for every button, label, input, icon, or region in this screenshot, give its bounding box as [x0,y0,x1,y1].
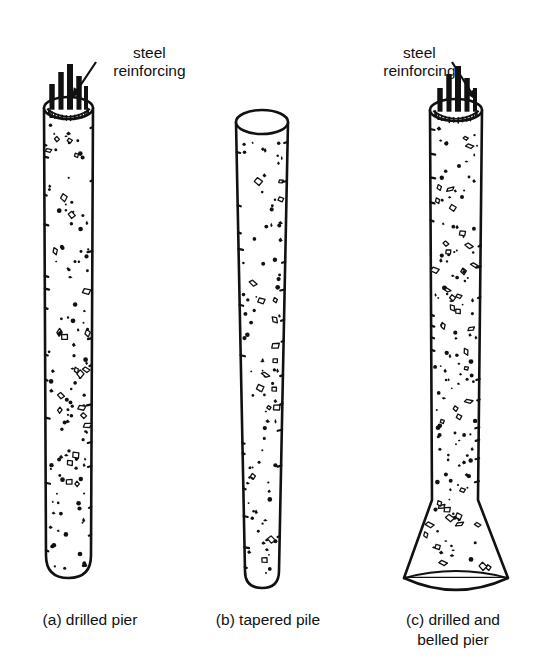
aggregate-dot [242,293,246,297]
aggregate-dot [257,530,260,533]
aggregate-dot [273,368,276,371]
edge-tick [45,418,49,419]
edge-tick [282,181,287,182]
aggregate-dot [82,322,84,324]
aggregate-dot [60,428,63,431]
aggregate-dot [466,454,469,457]
callout-line-2: reinforcing [383,62,455,79]
edge-tick [88,338,92,339]
aggregate-dot [64,532,69,537]
edge-tick [282,341,284,342]
aggregate-dot [67,449,70,452]
edge-tick [280,375,283,376]
aggregate-dot [441,199,444,202]
edge-tick [240,305,244,306]
aggregate-dot [83,357,88,362]
aggregate-dot [442,285,447,290]
edge-tick [280,290,285,291]
aggregate-dot [48,350,51,353]
aggregate-dot [73,260,76,263]
edge-tick [238,232,241,233]
aggregate-dot [58,474,61,477]
aggregate-dot [73,302,77,306]
aggregate-dot [268,567,272,571]
edge-tick [89,507,91,508]
aggregate-dot [261,262,265,266]
aggregate-dot [56,493,58,495]
rebar-bar-upper-5 [84,86,88,110]
aggregate-dot [436,530,439,533]
edge-tick [478,297,480,298]
aggregate-dot [275,285,280,290]
aggregate-dot [243,150,247,154]
steel-reinforcing-label-c: steel reinforcing [366,26,456,98]
aggregate-dot [67,414,69,416]
aggregate-dot [76,501,81,506]
aggregate-dot [277,277,281,281]
aggregate-dot [78,151,83,156]
bell-base-curve [404,578,508,590]
edge-tick [278,536,280,537]
aggregate-dot [455,443,457,445]
aggregate-dot [466,487,468,489]
aggregate-dot [462,304,464,306]
aggregate-dot [65,209,67,211]
aggregate-dot [437,391,441,395]
aggregate-dot [451,225,455,229]
aggregate-dot [248,476,251,479]
aggregate-dot [87,248,89,250]
caption-belled-pier: (c) drilled and belled pier [370,610,536,650]
callout-line-1: steel [133,44,166,61]
aggregate-dot [252,510,255,513]
edge-tick [241,355,246,356]
aggregate-dot [447,454,450,457]
edge-tick [430,177,435,178]
aggregate-dot [253,237,257,241]
aggregate-dot [460,195,464,199]
edge-tick [477,399,479,400]
aggregate-dot [81,438,84,441]
edge-tick [91,180,93,181]
aggregate-dot [473,134,475,136]
aggregate-dot [50,468,52,470]
edge-tick [245,567,247,568]
aggregate-dot [70,222,73,225]
aggregate-dot [276,155,278,157]
edge-tick [430,129,434,130]
aggregate-dot [81,214,84,217]
caption-line-1: (a) drilled pier [0,610,180,630]
aggregate-dot [65,398,69,402]
aggregate-dot [75,457,79,461]
aggregate-dot [243,312,247,316]
aggregate-dot [84,430,87,433]
edge-tick [45,289,49,290]
edge-tick [44,157,48,158]
aggregate-dot [52,543,57,548]
caption-line-1: (c) drilled and [370,610,536,630]
edge-tick [45,355,48,356]
belled-pier-body [404,110,508,578]
aggregate-dot [54,148,57,151]
aggregate-dot [453,516,457,520]
aggregate-dot [468,458,472,462]
edge-tick [242,453,244,454]
aggregate-dot [65,204,67,206]
aggregate-dot [447,459,450,462]
edge-tick [476,458,480,459]
edge-tick [431,326,434,327]
aggregate-dot [83,492,85,494]
aggregate-dot [261,523,263,525]
aggregate-dot [78,552,83,557]
aggregate-dot [78,227,83,232]
aggregate-dot [49,379,54,384]
edge-tick [281,320,284,321]
aggregate-dot [84,254,88,258]
aggregate-dot [268,554,270,556]
aggregate-dot [71,318,76,323]
edge-tick [476,379,479,380]
aggregate-dot [438,448,441,451]
edge-tick [479,245,481,246]
belled-pier-drawing [404,66,508,590]
aggregate-dot [456,249,458,251]
callout-line-2: reinforcing [113,62,185,79]
